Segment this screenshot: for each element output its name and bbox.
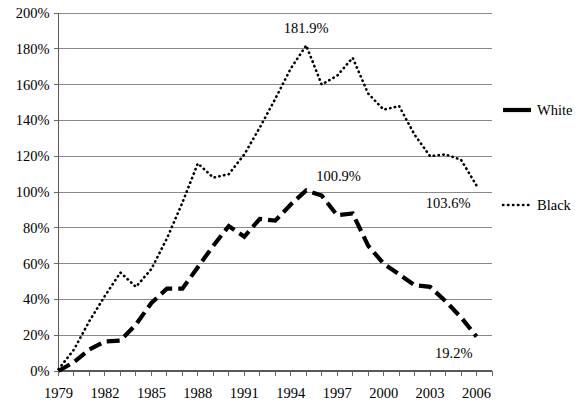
data-label-black-2: 103.6% (426, 195, 471, 211)
x-tick-label-1988: 1988 (183, 385, 212, 401)
y-tick-label-160: 160% (16, 77, 50, 93)
x-tick-label-2003: 2003 (416, 385, 445, 401)
chart-legend: White Black (503, 102, 572, 213)
x-tick-label-1994: 1994 (276, 385, 306, 401)
x-tick-label-1982: 1982 (90, 385, 119, 401)
legend-label-black: Black (537, 197, 572, 213)
y-tick-label-20: 20% (23, 327, 50, 343)
gridlines (59, 13, 493, 371)
y-tick-label-200: 200% (16, 5, 50, 21)
x-tick-label-1991: 1991 (230, 385, 259, 401)
x-tick-label-2000: 2000 (369, 385, 398, 401)
data-point-labels: 181.9%100.9%103.6%19.2% (284, 20, 473, 360)
y-tick-label-80: 80% (23, 220, 50, 236)
data-label-white-1: 100.9% (316, 168, 361, 184)
y-tick-label-0: 0% (30, 363, 49, 379)
y-tick-label-60: 60% (23, 256, 50, 272)
x-tick-label-1997: 1997 (323, 385, 352, 401)
data-label-white-3: 19.2% (435, 345, 472, 361)
y-tick-label-140: 140% (16, 112, 50, 128)
y-tick-label-120: 120% (16, 148, 50, 164)
x-tick-label-1979: 1979 (44, 385, 73, 401)
data-label-black-0: 181.9% (284, 20, 329, 36)
x-tick-label-2006: 2006 (462, 385, 491, 401)
y-tick-label-100: 100% (16, 184, 50, 200)
series-line-black (59, 45, 477, 369)
x-tick-label-1985: 1985 (137, 385, 166, 401)
x-axis-tick-labels: 1979198219851988199119941997200020032006 (44, 385, 491, 401)
series-line-white (59, 190, 477, 371)
legend-label-white: White (537, 102, 572, 118)
y-axis-tick-labels: 0%20%40%60%80%100%120%140%160%180%200% (16, 5, 50, 379)
y-tick-label-180: 180% (16, 41, 50, 57)
chart-canvas: 0%20%40%60%80%100%120%140%160%180%200% 1… (0, 0, 582, 418)
y-tick-label-40: 40% (23, 291, 50, 307)
line-chart: 0%20%40%60%80%100%120%140%160%180%200% 1… (0, 0, 582, 418)
